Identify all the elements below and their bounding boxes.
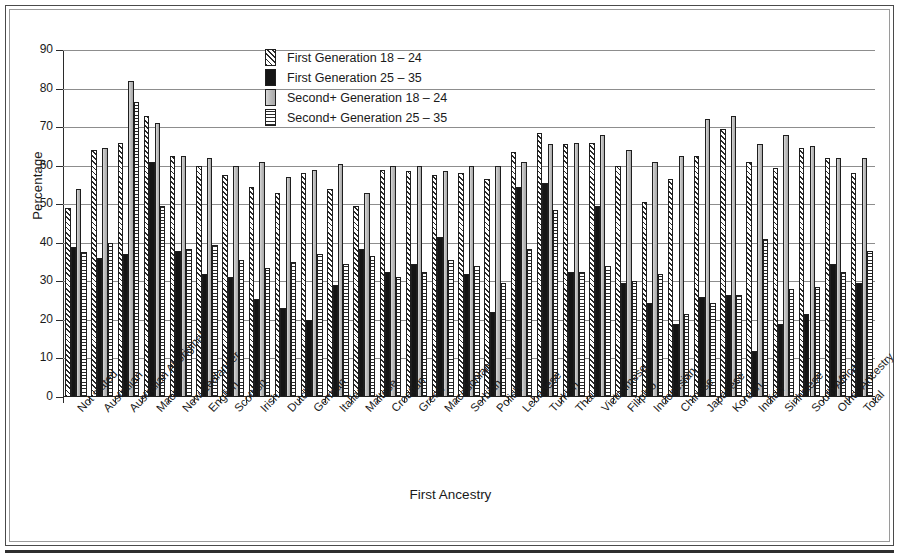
bar-group [613, 50, 639, 397]
x-axis-tick [875, 397, 876, 403]
x-axis-tick [89, 397, 90, 403]
bar-group [770, 50, 796, 397]
y-axis-tick-label: 80 [23, 81, 53, 95]
legend-swatch-icon [265, 89, 276, 106]
bar-group [142, 50, 168, 397]
legend-item: First Generation 25 – 35 [265, 68, 495, 87]
y-axis-tick-label: 0 [23, 389, 53, 403]
y-axis-tick-label: 70 [23, 119, 53, 133]
chart-legend: First Generation 18 – 24First Generation… [265, 48, 495, 128]
x-axis-tick [325, 397, 326, 403]
bar-group [639, 50, 665, 397]
y-axis-tick [56, 320, 63, 321]
bar-second_gen_25_35 [317, 254, 322, 397]
x-axis-tick [220, 397, 221, 403]
x-axis-tick [796, 397, 797, 403]
x-axis-tick [142, 397, 143, 403]
y-axis-tick-label: 30 [23, 273, 53, 287]
x-axis-tick [849, 397, 850, 403]
bar-group [89, 50, 115, 397]
bar-group [115, 50, 141, 397]
bar-second_gen_25_35 [527, 249, 532, 397]
bar-second_gen_25_35 [186, 249, 191, 397]
x-axis-tick [482, 397, 483, 403]
bar-group [692, 50, 718, 397]
bar-second_gen_25_35 [265, 268, 270, 397]
x-axis-title: First Ancestry [0, 487, 901, 502]
bar-second_gen_25_35 [789, 289, 794, 397]
bar-second_gen_25_35 [291, 262, 296, 397]
bar-second_gen_25_35 [343, 264, 348, 397]
bar-second_gen_25_35 [501, 283, 506, 397]
y-axis-tick-label: 90 [23, 42, 53, 56]
legend-label: First Generation 18 – 24 [287, 51, 422, 65]
bar-group [849, 50, 875, 397]
x-axis-tick [430, 397, 431, 403]
x-axis-tick [63, 397, 64, 403]
x-axis-tick [246, 397, 247, 403]
x-axis-tick [665, 397, 666, 403]
legend-label: Second+ Generation 18 – 24 [287, 91, 447, 105]
x-axis-tick [404, 397, 405, 403]
bar-second_gen_25_35 [396, 277, 401, 397]
x-axis-tick [273, 397, 274, 403]
y-axis-tick-label: 60 [23, 158, 53, 172]
bar-group [561, 50, 587, 397]
y-axis-tick-label: 50 [23, 196, 53, 210]
x-axis-tick [561, 397, 562, 403]
chart-figure: Percentage 0102030405060708090 Not state… [0, 0, 901, 556]
x-axis-tick [823, 397, 824, 403]
x-axis-tick [639, 397, 640, 403]
bar-group [508, 50, 534, 397]
y-axis-tick [56, 397, 63, 398]
x-axis-tick [587, 397, 588, 403]
x-axis-tick [534, 397, 535, 403]
bar-second_gen_25_35 [763, 239, 768, 397]
y-axis-tick-label: 20 [23, 312, 53, 326]
legend-label: Second+ Generation 25 – 35 [287, 111, 447, 125]
legend-swatch-icon [265, 109, 276, 126]
x-axis-tick [351, 397, 352, 403]
x-axis-tick [456, 397, 457, 403]
x-axis-tick [613, 397, 614, 403]
y-axis-tick [56, 281, 63, 282]
y-axis-tick [56, 50, 63, 51]
bar-group [587, 50, 613, 397]
bar-group [63, 50, 89, 397]
y-axis-tick-label: 10 [23, 350, 53, 364]
x-axis-tick [168, 397, 169, 403]
x-axis-tick [194, 397, 195, 403]
x-axis-tick [115, 397, 116, 403]
y-axis-tick [56, 89, 63, 90]
y-axis-tick [56, 358, 63, 359]
x-axis-tick [377, 397, 378, 403]
legend-item: Second+ Generation 18 – 24 [265, 88, 495, 107]
legend-label: First Generation 25 – 35 [287, 71, 422, 85]
bar-second_gen_25_35 [658, 274, 663, 397]
legend-item: First Generation 18 – 24 [265, 48, 495, 67]
bar-second_gen_25_35 [605, 266, 610, 397]
legend-swatch-icon [265, 69, 276, 86]
bar-second_gen_25_35 [239, 260, 244, 397]
bar-group [534, 50, 560, 397]
y-axis-tick-label: 40 [23, 235, 53, 249]
y-axis-tick [56, 204, 63, 205]
bar-group [220, 50, 246, 397]
bar-second_gen_25_35 [134, 102, 139, 397]
x-axis-tick [508, 397, 509, 403]
scan-edge [5, 550, 894, 553]
bar-second_gen_25_35 [81, 252, 86, 397]
x-axis-tick [718, 397, 719, 403]
x-axis-tick [692, 397, 693, 403]
bar-group [744, 50, 770, 397]
legend-item: Second+ Generation 25 – 35 [265, 108, 495, 127]
bar-group [718, 50, 744, 397]
y-axis-tick [56, 127, 63, 128]
y-axis-tick [56, 243, 63, 244]
bar-second_gen_25_35 [579, 272, 584, 397]
bar-group [823, 50, 849, 397]
legend-swatch-icon [265, 49, 276, 66]
bar-group [796, 50, 822, 397]
x-axis-tick [770, 397, 771, 403]
bar-second_gen_25_35 [448, 260, 453, 397]
